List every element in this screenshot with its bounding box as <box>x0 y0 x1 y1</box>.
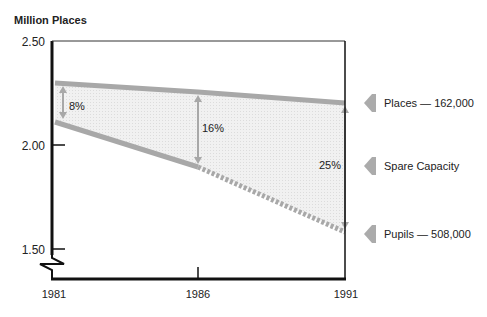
x-tick-label-1986: 1986 <box>186 288 210 300</box>
svg-text:Pupils — 508,000: Pupils — 508,000 <box>384 228 471 240</box>
svg-text:Places — 162,000: Places — 162,000 <box>384 97 474 109</box>
legend-places: Places — 162,000 <box>364 94 474 112</box>
annotation-1986: 16% <box>202 122 224 134</box>
axis-break-icon <box>40 255 64 280</box>
annotation-1981: 8% <box>69 100 85 112</box>
svg-text:Spare Capacity: Spare Capacity <box>384 160 460 172</box>
left-arrow-icon <box>364 157 376 175</box>
legend-spare-capacity: Spare Capacity <box>364 157 460 175</box>
spare-capacity-chart: Million Places 8% 16% 25% 2.50 2.00 1.50… <box>0 0 487 317</box>
annotation-1991: 25% <box>319 159 341 171</box>
y-tick-label-2.50: 2.50 <box>22 35 46 49</box>
x-tick-label-1991: 1991 <box>334 288 358 300</box>
y-tick-label-2.00: 2.00 <box>22 139 46 153</box>
left-arrow-icon <box>364 225 376 243</box>
y-axis-title: Million Places <box>14 14 87 26</box>
y-tick-label-1.50: 1.50 <box>22 243 46 257</box>
left-arrow-icon <box>364 94 376 112</box>
legend-pupils: Pupils — 508,000 <box>364 225 471 243</box>
x-tick-label-1981: 1981 <box>42 288 66 300</box>
